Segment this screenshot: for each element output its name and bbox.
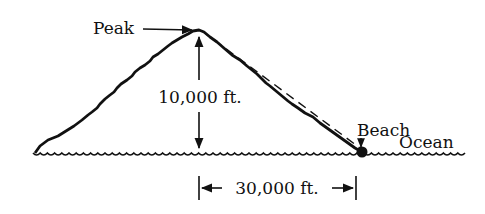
ocean-surface-line bbox=[33, 153, 465, 155]
ocean-label: Ocean bbox=[399, 132, 454, 152]
height-label: 10,000 ft. bbox=[158, 87, 241, 107]
beach-point bbox=[357, 147, 368, 158]
peak-label: Peak bbox=[93, 18, 135, 38]
peak-arrow bbox=[143, 29, 192, 30]
distance-label: 30,000 ft. bbox=[235, 178, 318, 198]
mountain-diagram: Peak 10,000 ft. Beach Ocean 30,000 ft. bbox=[0, 0, 485, 214]
